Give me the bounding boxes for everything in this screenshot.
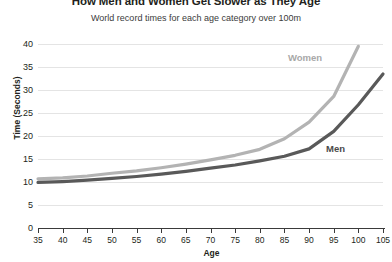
x-axis-tick — [309, 229, 310, 233]
x-axis-tick — [284, 229, 285, 233]
series-label-men: Men — [326, 143, 345, 154]
x-tick-label: 40 — [51, 235, 75, 245]
x-axis: 35404550556065707580859095100105 Age — [38, 229, 385, 259]
x-axis-title: Age — [38, 248, 385, 258]
x-tick-label: 85 — [272, 235, 296, 245]
x-axis-tick — [87, 229, 88, 233]
x-tick-label: 65 — [174, 235, 198, 245]
x-tick-label: 105 — [371, 235, 392, 245]
x-axis-tick — [161, 229, 162, 233]
y-tick-label: 35 — [11, 63, 33, 72]
x-axis-tick — [63, 229, 64, 233]
men-line — [38, 74, 383, 183]
series-label-women: Women — [288, 52, 322, 63]
women-line — [38, 46, 358, 178]
x-tick-label: 60 — [149, 235, 173, 245]
x-tick-label: 55 — [125, 235, 149, 245]
y-tick-label: 0 — [11, 224, 33, 233]
x-tick-label: 95 — [322, 235, 346, 245]
x-tick-label: 50 — [100, 235, 124, 245]
x-tick-label: 70 — [199, 235, 223, 245]
x-axis-tick — [137, 229, 138, 233]
x-axis-tick — [112, 229, 113, 233]
x-axis-tick — [235, 229, 236, 233]
chart-title: How Men and Women Get Slower as They Age — [0, 0, 392, 7]
y-tick-label: 40 — [11, 40, 33, 49]
y-tick-label: 10 — [11, 178, 33, 187]
y-tick-label: 20 — [11, 132, 33, 141]
y-tick-label: 5 — [11, 201, 33, 210]
x-tick-label: 80 — [248, 235, 272, 245]
x-tick-label: 45 — [75, 235, 99, 245]
y-tick-label: 25 — [11, 109, 33, 118]
y-axis-tick-labels: 40 35 30 25 20 15 10 5 0 — [0, 44, 33, 228]
x-axis-tick — [358, 229, 359, 233]
y-tick-label: 15 — [11, 155, 33, 164]
x-tick-label: 35 — [26, 235, 50, 245]
y-tick-label: 30 — [11, 86, 33, 95]
x-axis-tick — [383, 229, 384, 233]
chart-subtitle: World record times for each age category… — [0, 13, 392, 23]
x-axis-tick — [260, 229, 261, 233]
x-axis-tick — [186, 229, 187, 233]
chart-container: How Men and Women Get Slower as They Age… — [0, 0, 392, 262]
x-axis-tick — [334, 229, 335, 233]
series-lines — [38, 44, 383, 228]
x-tick-label: 75 — [223, 235, 247, 245]
plot-area: Women Men — [38, 44, 383, 228]
x-axis-tick — [211, 229, 212, 233]
x-tick-label: 100 — [346, 235, 370, 245]
x-tick-label: 90 — [297, 235, 321, 245]
x-axis-tick — [38, 229, 39, 233]
